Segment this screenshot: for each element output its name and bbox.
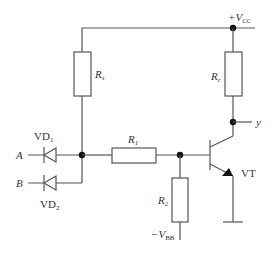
resistor-r2: R2 −VBB [151, 155, 188, 242]
vd2-label: VD2 [40, 198, 60, 212]
emitter-arrow-icon [222, 168, 233, 176]
vd1-label: VD1 [34, 130, 54, 144]
diode-vd1: VD1 A [15, 130, 82, 163]
rc-label: Rc [210, 70, 222, 84]
output-y: y [230, 116, 261, 128]
vt-label: VT [241, 167, 256, 179]
resistor-r1: R1 [82, 133, 210, 163]
resistor-rs: Rs [74, 52, 105, 183]
vcc-label: +VCC [228, 11, 252, 25]
r2-label: R2 [157, 194, 169, 208]
vcc-rail: +VCC [82, 11, 255, 52]
input-a-label: A [15, 149, 23, 161]
r1-label: R1 [127, 133, 138, 147]
circuit-diagram: +VCC Rs Rc y VD1 A [0, 0, 274, 253]
vbb-label: −VBB [151, 228, 175, 242]
transistor-vt: VT [210, 136, 256, 222]
resistor-rc: Rc [210, 28, 242, 136]
output-y-label: y [255, 116, 261, 128]
rs-label: Rs [94, 68, 105, 82]
diode-vd2: VD2 B [16, 175, 82, 212]
input-b-label: B [16, 177, 23, 189]
